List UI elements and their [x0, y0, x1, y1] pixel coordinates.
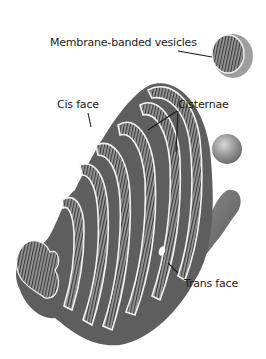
cis-face-leader	[88, 113, 91, 127]
golgi-diagram	[0, 0, 266, 359]
free-vesicle-sphere	[212, 134, 242, 164]
label-membrane-banded-vesicles: Membrane-banded vesicles	[50, 36, 197, 49]
label-cisternae: Cisternae	[178, 98, 229, 111]
membrane-banded-vesicle	[212, 34, 253, 78]
golgi-stack	[16, 83, 213, 345]
label-trans-face: Trans face	[184, 277, 238, 290]
vesicles-leader	[178, 51, 212, 57]
label-cis-face: Cis face	[57, 98, 99, 111]
